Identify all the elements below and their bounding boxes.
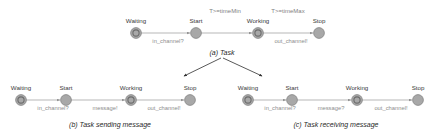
- state-label-working: Working: [346, 84, 369, 91]
- state-node-working[interactable]: [352, 95, 363, 106]
- sync-label-message: message?: [318, 105, 346, 111]
- guard-label-start-working: T>=timeMin: [209, 8, 241, 14]
- state-node-waiting[interactable]: [243, 95, 254, 106]
- state-node-stop[interactable]: [185, 95, 196, 106]
- state-node-stop[interactable]: [314, 28, 325, 39]
- state-label-working: Working: [120, 84, 143, 91]
- branch-arrow-right-icon: [223, 58, 262, 76]
- sync-label-out-channel: out_channel!: [147, 105, 181, 111]
- caption-diagram-a: (a) Task: [209, 49, 235, 57]
- sync-label-out-channel: out_channel!: [374, 105, 408, 111]
- state-node-stop[interactable]: [413, 95, 424, 106]
- state-label-stop: Stop: [184, 84, 197, 91]
- sync-label-out-channel: out_channel!: [274, 38, 308, 44]
- state-circle: [191, 28, 202, 39]
- state-circle: [253, 28, 264, 39]
- state-circle: [16, 95, 27, 106]
- diagram-a: Waiting Start Working Stop T>=timeMin T>…: [126, 8, 326, 57]
- state-node-waiting[interactable]: [16, 95, 27, 106]
- state-label-stop: Stop: [412, 84, 425, 91]
- sync-label-message: message!: [92, 105, 118, 111]
- state-label-waiting: Waiting: [126, 17, 147, 24]
- diagram-b: Waiting Start Working Stop in_channel? m…: [11, 84, 197, 129]
- state-label-waiting: Waiting: [238, 84, 259, 91]
- state-circle: [126, 95, 137, 106]
- sync-label-in-channel: in_channel?: [264, 105, 296, 111]
- state-circle: [352, 95, 363, 106]
- guard-label-working-stop: T>=timeMax: [271, 8, 304, 14]
- state-circle: [314, 28, 325, 39]
- state-circle: [131, 28, 142, 39]
- figure-root: Waiting Start Working Stop T>=timeMin T>…: [0, 0, 445, 140]
- automata-figure: Waiting Start Working Stop T>=timeMin T>…: [0, 0, 445, 140]
- state-node-working[interactable]: [253, 28, 264, 39]
- state-circle: [243, 95, 254, 106]
- sync-label-in-channel: in_channel?: [152, 38, 184, 44]
- caption-diagram-b: (b) Task sending message: [69, 121, 151, 129]
- state-label-start: Start: [189, 17, 202, 24]
- state-label-working: Working: [247, 17, 270, 24]
- state-label-waiting: Waiting: [11, 84, 32, 91]
- state-node-working[interactable]: [126, 95, 137, 106]
- state-circle: [413, 95, 424, 106]
- branch-arrows: [184, 58, 262, 76]
- state-node-start[interactable]: [191, 28, 202, 39]
- state-label-start: Start: [59, 84, 72, 91]
- state-label-start: Start: [285, 84, 298, 91]
- sync-label-in-channel: in_channel?: [37, 105, 69, 111]
- state-circle: [185, 95, 196, 106]
- branch-arrow-left-icon: [184, 58, 221, 76]
- diagram-c: Waiting Start Working Stop in_channel? m…: [238, 84, 425, 129]
- caption-diagram-c: (c) Task receiving message: [294, 121, 379, 129]
- state-node-waiting[interactable]: [131, 28, 142, 39]
- state-label-stop: Stop: [313, 17, 326, 24]
